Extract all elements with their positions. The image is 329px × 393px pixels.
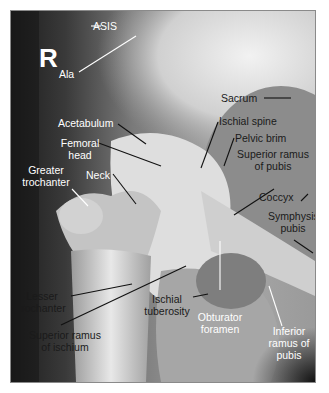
label-superior-ramus-ischium: Superior ramus of ischium xyxy=(25,329,105,353)
label-asis: ASIS xyxy=(93,20,117,32)
label-greater-trochanter: Greater trochanter xyxy=(16,164,76,188)
label-pelvic-brim: Pelvic brim xyxy=(235,132,286,144)
xray-frame: R ASIS Ala Acetabulum Femoral head Great… xyxy=(10,10,316,383)
side-marker: R xyxy=(39,45,58,71)
label-obturator-foramen: Obturator foramen xyxy=(189,311,251,335)
label-ischial-spine: Ischial spine xyxy=(219,115,277,127)
label-lesser-trochanter: Lesser trochanter xyxy=(16,290,68,314)
label-sacrum: Sacrum xyxy=(221,92,257,104)
label-superior-ramus-pubis: Superior ramus of pubis xyxy=(233,148,313,172)
label-symphysis-pubis: Symphysis pubis xyxy=(268,210,316,234)
label-inferior-ramus-pubis: Inferior ramus of pubis xyxy=(264,325,314,361)
label-coccyx: Coccyx xyxy=(259,191,293,203)
label-neck: Neck xyxy=(86,169,110,181)
label-femoral-head: Femoral head xyxy=(55,137,105,161)
label-ischial-tuberosity: Ischial tuberosity xyxy=(139,293,195,317)
label-acetabulum: Acetabulum xyxy=(58,117,113,129)
label-ala: Ala xyxy=(59,68,74,80)
